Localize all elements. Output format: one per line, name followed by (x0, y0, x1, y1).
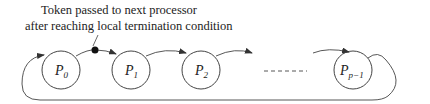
processor-label-0: P0 (54, 63, 69, 80)
arrow-p2-next (216, 51, 252, 56)
annotation-line-2: after reaching local termination conditi… (25, 19, 233, 33)
processor-label-2: P2 (194, 63, 209, 80)
arrow-prev-plast (313, 50, 349, 53)
token-dot (92, 47, 99, 54)
processor-label-1: P1 (124, 63, 138, 80)
annotation-leader-line (93, 35, 98, 46)
processor-label-last: Pp−1 (339, 63, 364, 80)
arrow-p1-p2 (146, 51, 186, 56)
annotation-line-1: Token passed to next processor (41, 3, 198, 17)
token-ring-diagram: Token passed to next processor after rea… (0, 0, 430, 104)
